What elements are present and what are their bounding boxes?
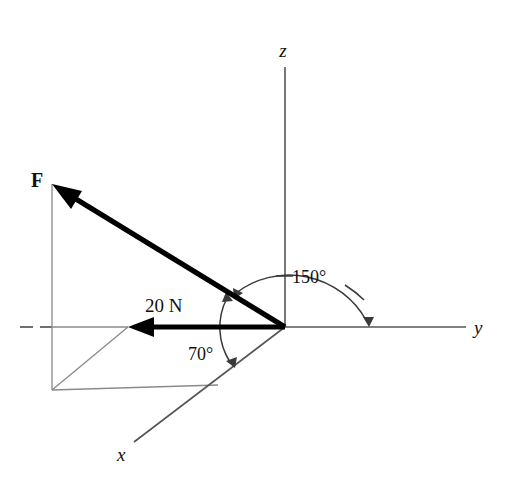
z-axis-label: z: [278, 40, 287, 61]
force-vector-diagram: z y x 150° 70° F 20 N: [0, 0, 511, 483]
force-vector-F-arrowhead: [52, 184, 82, 209]
component-vector-20N-arrowhead: [128, 317, 154, 337]
component-vector-20N-label: 20 N: [145, 295, 183, 316]
base-diagonal-line: [52, 327, 128, 390]
x-axis-label: x: [116, 444, 126, 465]
angle-70-arc: [220, 298, 230, 362]
angle-70-label: 70°: [188, 344, 213, 364]
base-horizontal-line: [52, 385, 218, 390]
component-vector-20N: [128, 317, 285, 337]
angle-150-label: 150°: [292, 267, 326, 287]
angle-70-group: [220, 292, 237, 368]
force-vector-F-label: F: [31, 169, 43, 191]
y-axis-label: y: [472, 317, 483, 338]
angle-150-arrowhead-end: [363, 317, 374, 327]
diagram-canvas: z y x 150° 70° F 20 N: [0, 0, 511, 483]
